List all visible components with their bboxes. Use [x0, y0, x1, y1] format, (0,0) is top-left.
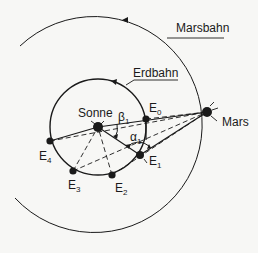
mars-body	[202, 107, 212, 117]
e4-label: E4	[39, 149, 52, 165]
erdbahn-label: Erdbahn	[133, 66, 178, 80]
e0-label: E0	[149, 101, 162, 117]
e1-label: E1	[149, 154, 162, 170]
alpha-label: α1	[130, 130, 142, 146]
mars-label: Mars	[222, 115, 249, 129]
earth-e3	[69, 167, 76, 174]
erdbahn-leader	[126, 80, 178, 85]
earth-e2	[108, 171, 115, 178]
earth-e4	[46, 137, 53, 144]
mars-orbit-arrow-icon	[122, 17, 128, 23]
earth-orbit-arrow-icon	[111, 79, 117, 85]
earth-e1	[136, 151, 144, 159]
earth-e0	[142, 115, 149, 122]
orbit-diagram: Marsbahn Erdbahn Sonne Mars β1 α1 E0 E1 …	[0, 0, 258, 253]
e3-label: E3	[68, 178, 81, 194]
e1-rays-icon	[144, 159, 147, 163]
marsbahn-label: Marsbahn	[176, 21, 229, 35]
beta-label: β1	[118, 110, 130, 126]
sun-label: Sonne	[78, 106, 113, 120]
mars-orbit	[15, 17, 202, 233]
e2-label: E2	[115, 181, 128, 197]
